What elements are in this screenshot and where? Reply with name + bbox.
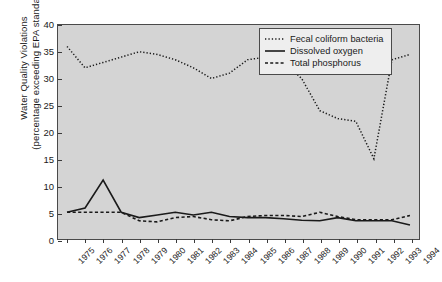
x-axis-tick-label: 1981 [186,246,206,266]
x-axis-tick-label: 1976 [95,246,115,266]
y-axis-tick-mark [58,241,62,242]
x-axis-tick-mark [67,239,68,243]
x-axis-tick-label: 1979 [149,246,169,266]
x-axis-tick-mark [321,239,322,243]
x-axis-tick-mark [176,239,177,243]
x-axis-tick-label: 1984 [240,246,260,266]
y-axis-tick-label: 10 [43,182,54,192]
x-axis-tick-mark [85,239,86,243]
legend-label-fecal-coliform-bacteria: Fecal coliform bacteria [290,34,384,44]
x-axis-tick-mark [376,239,377,243]
x-axis-tick-mark [303,239,304,243]
x-axis-tick-mark [394,239,395,243]
x-axis-tick-label: 1983 [222,246,242,266]
y-axis-tick-label: 30 [43,74,54,84]
x-axis-tick-label: 1993 [403,246,423,266]
x-axis-tick-label: 1980 [167,246,187,266]
y-axis-tick-label: 40 [43,20,54,30]
solid-line-key-icon [265,46,285,56]
x-axis-tick-mark [267,239,268,243]
x-axis-tick-label: 1992 [385,246,405,266]
y-axis-tick-label: 15 [43,155,54,165]
x-axis-tick-label: 1989 [331,246,351,266]
y-axis-title-line2: (percentage exceeding EPA standard) [30,0,42,178]
dotted-line-key-icon [265,34,285,44]
x-axis-tick-mark [140,239,141,243]
legend-item-total-phosphorus: Total phosphorus [265,57,384,69]
y-axis-tick-mark [58,79,62,80]
y-axis-tick-label: 20 [43,128,54,138]
x-axis-tick-label: 1978 [131,246,151,266]
x-axis-tick-label: 1994 [422,246,442,266]
y-axis-tick-label: 5 [49,209,54,219]
x-axis-tick-label: 1977 [113,246,133,266]
y-axis-tick-mark [58,106,62,107]
y-axis-tick-mark [58,52,62,53]
x-axis-tick-label: 1986 [276,246,296,266]
legend-item-fecal-coliform-bacteria: Fecal coliform bacteria [265,33,384,45]
x-axis-tick-mark [158,239,159,243]
y-axis-tick-mark [58,160,62,161]
y-axis-tick-mark [58,133,62,134]
x-axis-tick-label: 1982 [204,246,224,266]
x-axis-tick-mark [230,239,231,243]
dashed-line-key-icon [265,58,285,68]
y-axis-tick-label: 0 [49,236,54,246]
x-axis-tick-mark [339,239,340,243]
legend: Fecal coliform bacteria Dissolved oxygen… [259,28,392,75]
x-axis-tick-mark [412,239,413,243]
y-axis-tick-mark [58,187,62,188]
x-axis-tick-mark [194,239,195,243]
y-axis-tick-label: 25 [43,101,54,111]
y-axis-title: Water Quality Violations (percentage exc… [18,0,42,178]
water-quality-violations-chart: Water Quality Violations (percentage exc… [0,0,442,282]
y-axis-tick-mark [58,214,62,215]
y-axis-title-line1: Water Quality Violations [18,0,30,178]
x-axis-tick-mark [249,239,250,243]
y-axis-tick-mark [58,25,62,26]
x-axis-tick-label: 1990 [349,246,369,266]
x-axis-tick-label: 1991 [367,246,387,266]
x-axis-tick-label: 1988 [313,246,333,266]
x-axis-tick-label: 1985 [258,246,278,266]
x-axis-tick-label: 1987 [294,246,314,266]
legend-label-total-phosphorus: Total phosphorus [290,58,361,68]
x-axis-tick-mark [357,239,358,243]
x-axis-tick-mark [212,239,213,243]
x-axis-tick-mark [103,239,104,243]
x-axis-tick-mark [122,239,123,243]
x-axis-tick-mark [285,239,286,243]
y-axis-tick-label: 35 [43,47,54,57]
legend-label-dissolved-oxygen: Dissolved oxygen [290,46,363,56]
legend-item-dissolved-oxygen: Dissolved oxygen [265,45,384,57]
x-axis-tick-label: 1975 [77,246,97,266]
